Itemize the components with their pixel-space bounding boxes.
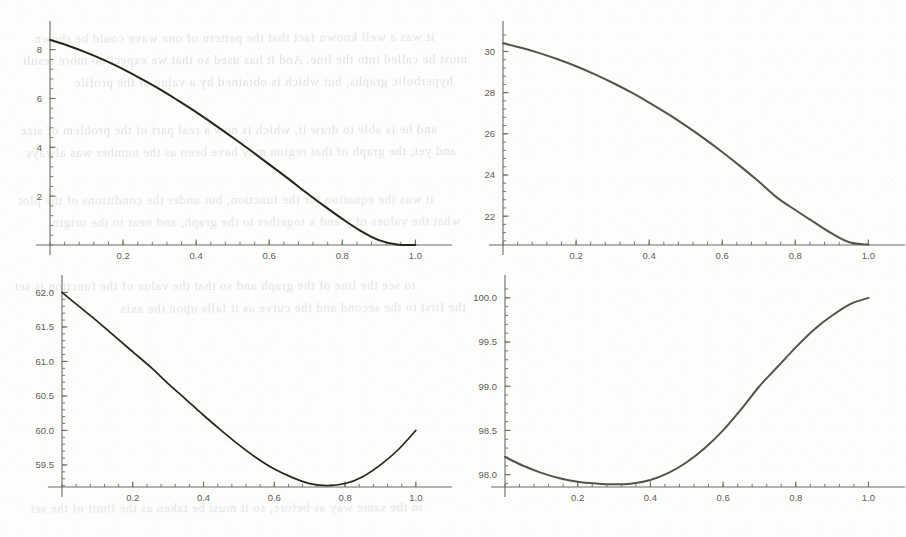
plot-top-right-svg: 0.20.40.60.81.02224262830	[453, 0, 906, 268]
data-curve	[503, 43, 868, 244]
x-axis-tick-label: 1.0	[409, 250, 422, 261]
x-axis-tick-label: 0.8	[789, 492, 802, 503]
x-axis-tick-label: 0.6	[716, 492, 729, 503]
plot-bottom-right-svg: 0.20.40.60.81.098.098.599.099.5100.0	[453, 268, 906, 537]
plot-top-left-svg: 0.20.40.60.81.02468	[0, 0, 453, 268]
y-axis-tick-label: 22	[484, 211, 495, 222]
y-axis-tick-label: 99.0	[479, 381, 498, 392]
x-axis-tick-label: 0.4	[644, 492, 657, 503]
y-axis-tick-label: 98.0	[479, 469, 498, 480]
x-axis-tick-label: 0.6	[263, 250, 276, 261]
y-axis-tick-label: 8	[37, 44, 42, 55]
y-axis-tick-label: 100.0	[473, 292, 497, 303]
x-axis-tick-label: 0.6	[716, 250, 729, 261]
x-axis-tick-label: 0.2	[126, 492, 139, 503]
y-axis-tick-label: 59.5	[36, 459, 55, 470]
data-curve	[62, 292, 416, 485]
y-axis-tick-label: 24	[484, 169, 495, 180]
x-axis-tick-label: 0.2	[116, 250, 129, 261]
x-axis-tick-label: 1.0	[862, 492, 875, 503]
x-axis-tick-label: 0.4	[643, 250, 656, 261]
x-axis-tick-label: 0.2	[569, 250, 582, 261]
y-axis-tick-label: 26	[484, 128, 495, 139]
plot-panel-bottom-left: 0.20.40.60.81.059.560.060.561.061.562.0	[0, 268, 453, 537]
plot-panel-bottom-right: 0.20.40.60.81.098.098.599.099.5100.0	[453, 268, 906, 537]
y-axis-tick-label: 60.5	[36, 390, 55, 401]
x-axis-tick-label: 0.6	[268, 492, 281, 503]
plot-panel-top-right: 0.20.40.60.81.02224262830	[453, 0, 906, 268]
x-axis-tick-label: 1.0	[409, 492, 422, 503]
data-curve	[50, 40, 415, 245]
x-axis-tick-label: 0.4	[190, 250, 203, 261]
x-axis-tick-label: 0.2	[571, 492, 584, 503]
y-axis-tick-label: 98.5	[479, 425, 498, 436]
y-axis-tick-label: 60.0	[36, 425, 55, 436]
y-axis-tick-label: 28	[484, 87, 495, 98]
y-axis-tick-label: 61.0	[36, 356, 55, 367]
data-curve	[505, 298, 868, 485]
y-axis-tick-label: 30	[484, 46, 495, 57]
x-axis-tick-label: 0.8	[338, 492, 351, 503]
four-panel-figure: 0.20.40.60.81.02468 0.20.40.60.81.022242…	[0, 0, 906, 537]
y-axis-tick-label: 6	[37, 93, 42, 104]
y-axis-tick-label: 2	[37, 191, 42, 202]
plot-panel-top-left: 0.20.40.60.81.02468	[0, 0, 453, 268]
y-axis-tick-label: 99.5	[479, 336, 498, 347]
x-axis-tick-label: 0.8	[789, 250, 802, 261]
y-axis-tick-label: 4	[37, 142, 42, 153]
x-axis-tick-label: 0.4	[197, 492, 210, 503]
y-axis-tick-label: 62.0	[36, 287, 55, 298]
y-axis-tick-label: 61.5	[36, 321, 55, 332]
plot-bottom-left-svg: 0.20.40.60.81.059.560.060.561.061.562.0	[0, 268, 453, 537]
x-axis-tick-label: 0.8	[336, 250, 349, 261]
x-axis-tick-label: 1.0	[862, 250, 875, 261]
